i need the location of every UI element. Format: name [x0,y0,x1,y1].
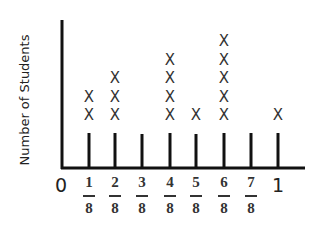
fraction-bar [83,195,95,197]
fraction-numerator: 6 [216,174,232,191]
x-mark: X [216,71,232,86]
x-mark: X [162,108,178,123]
fraction-denominator: 8 [134,200,150,217]
x-mark: X [162,71,178,86]
x-mark: X [216,34,232,49]
fraction-denominator: 8 [162,200,178,217]
y-axis-label: Number of Students [17,35,32,166]
fraction-denominator: 8 [107,200,123,217]
fraction-denominator: 8 [81,200,97,217]
tick-marks [89,133,278,168]
fraction-numerator: 3 [134,174,150,191]
fraction-denominator: 8 [216,200,232,217]
fraction-bar [245,195,257,197]
fraction-bar [190,195,202,197]
fraction-denominator: 8 [243,200,259,217]
x-mark: X [270,108,286,123]
x-mark: X [107,108,123,123]
x-mark: X [81,90,97,105]
fraction-numerator: 1 [81,174,97,191]
x-mark: X [188,108,204,123]
x-mark: X [81,108,97,123]
x-mark: X [216,108,232,123]
line-plot: Number of Students XXXXXXXXXXXXXXXX 0 1 … [0,0,318,229]
x-mark: X [162,53,178,68]
fraction-bar [136,195,148,197]
fraction-numerator: 2 [107,174,123,191]
fraction-numerator: 7 [243,174,259,191]
fraction-bar [218,195,230,197]
fraction-numerator: 4 [162,174,178,191]
x-mark: X [107,90,123,105]
x-mark: X [216,90,232,105]
x-tick-label-0: 0 [53,174,69,196]
x-mark: X [216,53,232,68]
fraction-bar [109,195,121,197]
fraction-bar [164,195,176,197]
x-mark: X [162,90,178,105]
x-mark: X [107,71,123,86]
fraction-numerator: 5 [188,174,204,191]
fraction-denominator: 8 [188,200,204,217]
x-tick-label-1: 1 [270,174,286,196]
